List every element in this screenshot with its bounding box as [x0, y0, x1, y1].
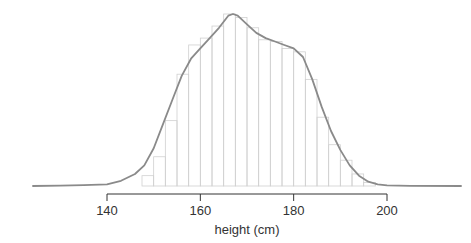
histogram-bar	[294, 52, 306, 186]
histogram-chart: 140160180200 height (cm)	[0, 0, 471, 243]
histogram-bar	[305, 79, 317, 186]
histogram-bar	[329, 145, 341, 186]
histogram-bar	[352, 174, 364, 186]
histogram-bar	[259, 40, 271, 186]
histogram-bar	[154, 157, 166, 186]
x-tick-label: 140	[96, 203, 118, 218]
x-axis-ticks: 140160180200	[96, 194, 398, 218]
histogram-bar	[317, 117, 329, 186]
histogram-bar	[212, 26, 224, 186]
x-tick-label: 200	[376, 203, 398, 218]
histogram-bars	[142, 14, 375, 186]
histogram-bar	[200, 38, 212, 186]
histogram-bar	[177, 74, 189, 186]
histogram-bar	[270, 42, 282, 186]
x-tick-label: 160	[189, 203, 211, 218]
histogram-bar	[235, 17, 247, 186]
x-axis: 140160180200	[96, 194, 398, 218]
histogram-bar	[189, 45, 201, 186]
histogram-bar	[340, 160, 352, 186]
x-axis-title: height (cm)	[214, 222, 279, 237]
histogram-bar	[224, 14, 236, 186]
histogram-bar	[282, 48, 294, 186]
x-tick-label: 180	[283, 203, 305, 218]
histogram-bar	[165, 121, 177, 186]
histogram-bar	[142, 176, 154, 186]
histogram-bar	[247, 28, 259, 186]
